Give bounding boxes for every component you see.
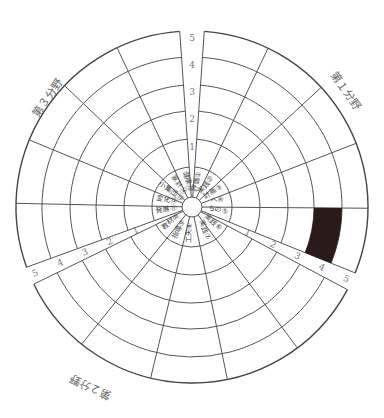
sector-title-3: 第３分野 <box>29 76 66 120</box>
item-labels: 評価①実践②計画③へ④ちの⑤実践⑥実践⑦工夫⑧指導⑨教材⑩発展⑪変化⑫小集団⑬家… <box>155 170 229 243</box>
assessment-wheel: 123451234512345 評価①実践②計画③へ④ちの⑤実践⑥実践⑦工夫⑧指… <box>0 0 384 418</box>
scale-number: 3 <box>293 250 303 262</box>
scale-number: 4 <box>56 257 65 269</box>
scale-number: 5 <box>189 33 195 43</box>
scale-number: 3 <box>80 246 89 258</box>
ring-arc <box>34 284 348 383</box>
sector-title-2: 第２分野 <box>67 372 113 403</box>
scale-number: 4 <box>317 262 327 274</box>
spoke-line <box>201 143 356 203</box>
spoke-line <box>34 211 183 284</box>
sector-title-1: 第１分野 <box>328 69 365 113</box>
scale-number: 5 <box>31 267 40 279</box>
scale-number: 3 <box>189 87 195 97</box>
scale-number: 1 <box>189 142 195 152</box>
item-label: 工夫⑧ <box>184 223 193 243</box>
scale-number: 4 <box>189 60 195 70</box>
ring-arc <box>106 249 277 303</box>
ring-arc <box>57 273 324 357</box>
ring-arc <box>82 261 299 330</box>
filled-cells <box>305 208 342 263</box>
ring-arc <box>204 31 368 273</box>
scale-number: 5 <box>342 273 352 285</box>
filled-cell <box>305 208 342 263</box>
hub-circle <box>182 197 202 217</box>
scale-number: 2 <box>105 236 114 247</box>
wheel-grid <box>16 31 368 383</box>
scale-number: 2 <box>189 114 195 124</box>
